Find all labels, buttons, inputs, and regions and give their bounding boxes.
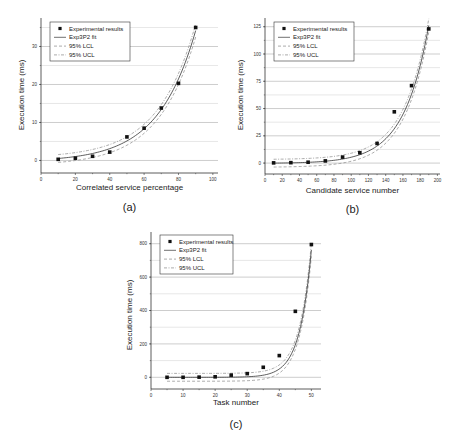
- y-tick-label: 25: [256, 133, 262, 138]
- data-point: [142, 126, 146, 130]
- legend-label: Experimental results: [69, 26, 123, 32]
- data-point: [177, 82, 181, 86]
- chart-panel-b: 0255075100125020406080100120140160180200…: [236, 18, 442, 215]
- x-tick-label: 60: [142, 177, 148, 182]
- panel-label: (a): [123, 201, 136, 213]
- x-tick-label: 100: [347, 178, 355, 183]
- legend: Experimental resultsExp3P2 fit95% LCL95%…: [274, 22, 354, 61]
- panel-label: (b): [346, 203, 359, 215]
- data-point: [108, 150, 112, 154]
- x-tick-label: 200: [434, 178, 442, 183]
- chart-panel-c: 020040060080001020304050Experimental res…: [125, 232, 321, 430]
- figure-canvas: 0102030020406080100Experimental resultsE…: [0, 0, 455, 442]
- x-tick-label: 40: [297, 178, 303, 183]
- x-tick-label: 120: [365, 178, 373, 183]
- legend-label: Exp3P2 fit: [69, 34, 97, 40]
- data-point: [375, 142, 379, 146]
- x-tick-label: 40: [107, 177, 113, 182]
- data-point: [310, 243, 314, 247]
- x-axis-label: Task number: [213, 398, 259, 407]
- y-tick-label: 50: [256, 106, 262, 111]
- data-point: [393, 110, 397, 114]
- legend-label: 95% LCL: [69, 43, 94, 49]
- x-tick-label: 20: [73, 177, 79, 182]
- x-tick-label: 140: [382, 178, 390, 183]
- y-tick-label: 30: [32, 44, 38, 49]
- y-axis-label: Execution time (ms): [236, 59, 245, 130]
- data-point: [213, 375, 217, 379]
- y-tick-label: 0: [34, 158, 37, 163]
- x-tick-label: 180: [416, 178, 424, 183]
- data-point: [181, 376, 185, 380]
- x-tick-label: 40: [277, 393, 283, 398]
- legend-label: 95% UCL: [293, 52, 319, 58]
- data-point: [289, 161, 293, 165]
- y-tick-label: 400: [139, 308, 147, 313]
- x-tick-label: 20: [280, 178, 286, 183]
- panel-label: (c): [230, 418, 243, 430]
- y-tick-label: 20: [32, 82, 38, 87]
- y-tick-label: 200: [139, 342, 147, 347]
- data-point: [294, 310, 298, 314]
- legend-marker-icon: [168, 240, 171, 243]
- chart-panel-a: 0102030020406080100Experimental resultsE…: [17, 18, 218, 213]
- y-tick-label: 600: [139, 275, 147, 280]
- y-axis-label: Execution time (ms): [17, 59, 26, 130]
- data-point: [427, 27, 431, 31]
- data-point: [341, 155, 345, 159]
- data-point: [91, 154, 95, 158]
- y-tick-label: 100: [253, 52, 261, 57]
- y-tick-label: 0: [144, 375, 147, 380]
- data-point: [410, 84, 414, 88]
- x-axis-label: Candidate service number: [306, 186, 400, 195]
- data-point: [125, 135, 129, 139]
- x-axis-label: Correlated service percentage: [76, 183, 184, 192]
- data-point: [272, 161, 276, 165]
- data-point: [306, 160, 310, 164]
- legend-label: Exp3P2 fit: [293, 34, 321, 40]
- x-tick-label: 50: [309, 393, 315, 398]
- data-point: [159, 106, 163, 110]
- data-point: [56, 158, 60, 162]
- x-tick-label: 0: [150, 393, 153, 398]
- data-point: [324, 159, 328, 163]
- legend: Experimental resultsExp3P2 fit95% LCL95%…: [50, 22, 130, 61]
- x-tick-label: 100: [209, 177, 217, 182]
- lcl-curve: [167, 256, 311, 381]
- data-point: [197, 375, 201, 379]
- x-tick-label: 0: [264, 178, 267, 183]
- legend-label: Experimental results: [179, 239, 233, 245]
- data-point: [358, 151, 362, 155]
- x-tick-label: 10: [181, 393, 187, 398]
- y-tick-label: 125: [253, 24, 261, 29]
- y-axis-label: Execution time (ms): [125, 279, 134, 350]
- legend-label: 95% LCL: [179, 256, 204, 262]
- x-tick-label: 0: [40, 177, 43, 182]
- legend-label: Exp3P2 fit: [179, 247, 207, 253]
- x-tick-label: 80: [176, 177, 182, 182]
- legend-label: Experimental results: [293, 26, 347, 32]
- data-point: [245, 372, 249, 376]
- y-tick-label: 800: [139, 241, 147, 246]
- legend-marker-icon: [282, 27, 285, 30]
- data-point: [261, 365, 265, 369]
- data-point: [229, 373, 233, 377]
- x-tick-label: 80: [331, 178, 337, 183]
- x-tick-label: 60: [314, 178, 320, 183]
- y-tick-label: 0: [258, 161, 261, 166]
- legend-marker-icon: [58, 27, 61, 30]
- legend-label: 95% UCL: [179, 265, 205, 271]
- data-point: [194, 26, 198, 30]
- data-point: [74, 156, 78, 160]
- y-tick-label: 75: [256, 79, 262, 84]
- legend: Experimental resultsExp3P2 fit95% LCL95%…: [160, 235, 233, 274]
- x-tick-label: 160: [399, 178, 407, 183]
- data-point: [165, 376, 169, 380]
- legend-label: 95% UCL: [69, 52, 95, 58]
- legend-label: 95% LCL: [293, 43, 318, 49]
- y-tick-label: 10: [32, 120, 38, 125]
- data-point: [278, 354, 282, 358]
